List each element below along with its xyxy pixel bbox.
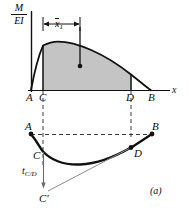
top-point-label-b: B (148, 92, 155, 103)
tangential-deviation-label: tC/D (22, 166, 36, 178)
beam-moment-area-figure: M EI x1 A C D B x A B C D C' tC/D (a) (0, 0, 189, 213)
centroid-distance-label: x1 (55, 19, 63, 31)
centroid-dot (78, 64, 83, 69)
centroid-distance-subscript: 1 (59, 23, 63, 31)
tangent-line-at-d (48, 148, 131, 192)
bottom-point-label-b: B (152, 121, 159, 132)
horizontal-axis-label: x (172, 85, 176, 95)
top-point-label-c: C (39, 92, 46, 103)
deviation-subscript: C/D (25, 170, 37, 178)
bottom-point-label-d: D (134, 148, 142, 159)
dimension-arrow-left-icon (44, 21, 50, 26)
figure-caption: (a) (150, 186, 162, 196)
node-dot-b (150, 132, 155, 137)
node-dot-a (29, 132, 34, 137)
tangent-endpoint-label: C' (39, 193, 49, 204)
centroid-distance-symbol: x (55, 19, 59, 29)
bottom-point-label-a: A (25, 121, 32, 132)
axis-label-denominator: EI (9, 16, 29, 26)
top-point-label-d: D (126, 92, 134, 103)
top-point-label-a: A (26, 92, 33, 103)
figure-canvas (0, 0, 189, 213)
deviation-arrow-icon (41, 183, 45, 189)
bottom-point-label-c: C (33, 150, 40, 161)
node-dot-d (129, 145, 134, 150)
dimension-arrow-right-icon (74, 21, 80, 26)
vertical-axis-label: M EI (9, 3, 29, 26)
axis-label-numerator: M (9, 3, 29, 14)
